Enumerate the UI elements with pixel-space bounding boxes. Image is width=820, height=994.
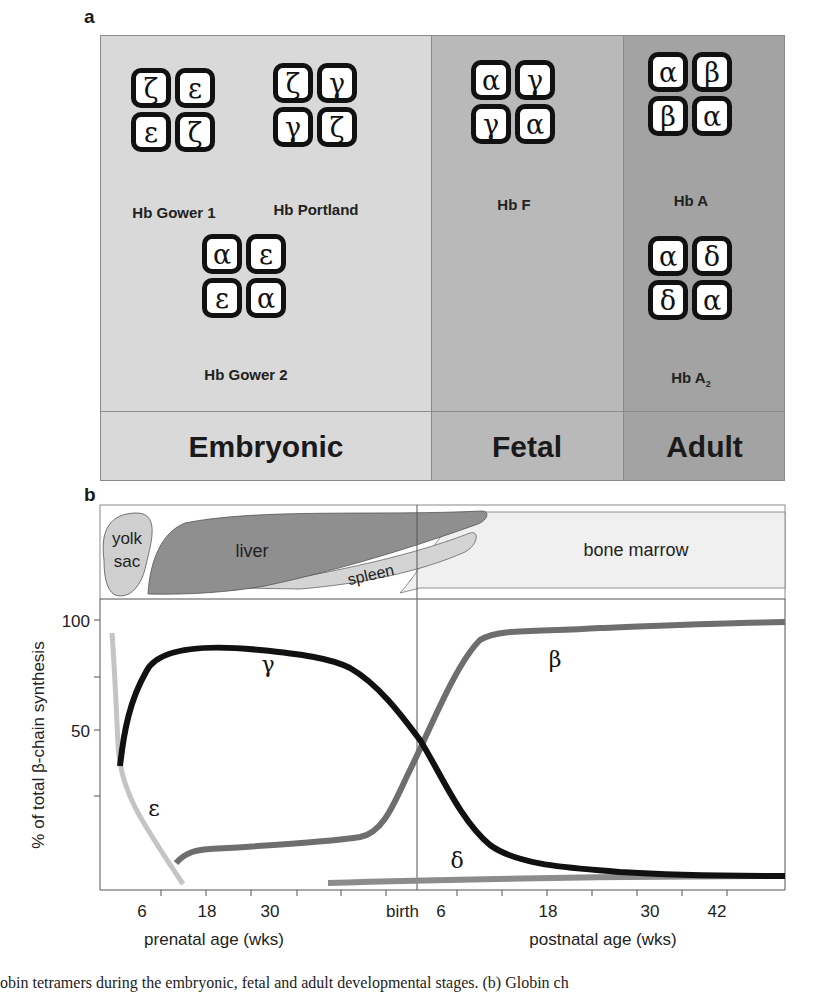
label-hb-f: Hb F bbox=[471, 196, 557, 213]
subunit-alpha: α bbox=[246, 278, 286, 318]
subunit-gamma: γ bbox=[273, 107, 313, 147]
stage-label-embryonic: Embryonic bbox=[101, 412, 431, 481]
tetramer-hb-gower-2: α ε ε α bbox=[202, 234, 288, 320]
subunit-alpha: α bbox=[692, 280, 732, 320]
label-hb-gower-2: Hb Gower 2 bbox=[181, 366, 311, 383]
stage-label-adult: Adult bbox=[623, 412, 785, 481]
x-tick-6-prenatal: 6 bbox=[137, 902, 146, 921]
label-hb-portland: Hb Portland bbox=[251, 201, 381, 218]
label-hb-gower-1: Hb Gower 1 bbox=[111, 204, 237, 221]
hemoglobin-stages-panel: Embryonic Fetal Adult ζ ε ε ζ Hb Gower 1… bbox=[100, 35, 785, 481]
tetramer-hb-a: α β β α bbox=[648, 52, 734, 138]
series-label-beta: β bbox=[549, 647, 562, 672]
site-label-liver: liver bbox=[235, 541, 268, 561]
figure-caption: obin tetramers during the embryonic, fet… bbox=[0, 974, 820, 992]
site-label-yolk: yolk bbox=[112, 529, 143, 548]
x-tick-18-prenatal: 18 bbox=[198, 902, 217, 921]
label-hb-a: Hb A bbox=[648, 192, 734, 209]
subunit-alpha: α bbox=[692, 96, 732, 136]
subunit-alpha: α bbox=[202, 234, 242, 274]
label-hb-a2-text: Hb A bbox=[671, 369, 705, 386]
subunit-delta: δ bbox=[692, 236, 732, 276]
y-tick-50: 50 bbox=[71, 722, 90, 741]
y-axis-label: % of total β-chain synthesis bbox=[29, 641, 48, 848]
subunit-epsilon: ε bbox=[175, 68, 215, 108]
subunit-gamma: γ bbox=[317, 63, 357, 103]
x-axis-label-postnatal: postnatal age (wks) bbox=[529, 930, 676, 949]
subunit-alpha: α bbox=[648, 52, 688, 92]
subunit-gamma: γ bbox=[471, 104, 511, 144]
panel-a-letter: a bbox=[84, 6, 95, 28]
x-tick-18-postnatal: 18 bbox=[539, 902, 558, 921]
x-tick-42-postnatal: 42 bbox=[708, 902, 727, 921]
x-tick-30-prenatal: 30 bbox=[261, 902, 280, 921]
subunit-zeta: ζ bbox=[131, 68, 171, 108]
subunit-delta: δ bbox=[648, 280, 688, 320]
subunit-alpha: α bbox=[471, 60, 511, 100]
subunit-beta: β bbox=[648, 96, 688, 136]
site-label-sac: sac bbox=[114, 552, 141, 571]
subunit-gamma: γ bbox=[515, 60, 555, 100]
y-tick-100: 100 bbox=[62, 612, 90, 631]
label-hb-a2-subscript: 2 bbox=[706, 379, 711, 389]
tetramer-hb-f: α γ γ α bbox=[471, 60, 557, 146]
site-label-bone-marrow: bone marrow bbox=[583, 540, 689, 560]
x-tick-6-postnatal: 6 bbox=[436, 902, 445, 921]
tetramer-hb-a2: α δ δ α bbox=[648, 236, 734, 322]
subunit-zeta: ζ bbox=[273, 63, 313, 103]
label-hb-a2: Hb A2 bbox=[648, 369, 734, 389]
subunit-epsilon: ε bbox=[202, 278, 242, 318]
x-tick-30-postnatal: 30 bbox=[641, 902, 660, 921]
subunit-zeta: ζ bbox=[175, 112, 215, 152]
subunit-alpha: α bbox=[515, 104, 555, 144]
series-label-gamma: γ bbox=[261, 652, 274, 677]
series-label-epsilon: ε bbox=[148, 796, 159, 821]
globin-synthesis-chart: yolk sac liver spleen bone marrow 100 50… bbox=[0, 490, 820, 970]
subunit-epsilon: ε bbox=[131, 112, 171, 152]
tetramer-hb-gower-1: ζ ε ε ζ bbox=[131, 68, 217, 154]
subunit-zeta: ζ bbox=[317, 107, 357, 147]
x-axis-label-prenatal: prenatal age (wks) bbox=[144, 930, 284, 949]
x-tick-birth: birth bbox=[386, 902, 419, 921]
stage-label-fetal: Fetal bbox=[431, 412, 623, 481]
tetramer-hb-portland: ζ γ γ ζ bbox=[273, 63, 359, 149]
subunit-epsilon: ε bbox=[246, 234, 286, 274]
series-label-delta: δ bbox=[450, 848, 463, 873]
subunit-alpha: α bbox=[648, 236, 688, 276]
subunit-beta: β bbox=[692, 52, 732, 92]
